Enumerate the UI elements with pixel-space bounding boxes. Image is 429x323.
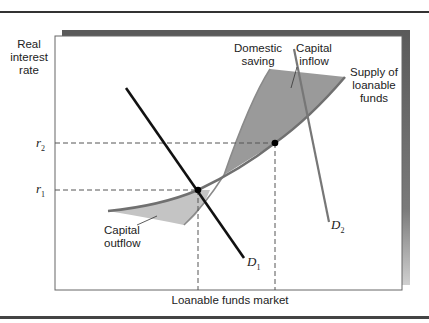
equilibrium-point-2 [272,140,279,147]
panel-right-shadow [402,30,410,285]
y-axis-label: Real interest rate [8,38,50,77]
capital-outflow-label: Capital outflow [104,224,148,250]
loanable-funds-diagram [0,0,429,323]
supply-label: Supply of loanable funds [345,66,403,105]
x-axis-label: Loanable funds market [130,294,330,307]
r2-label: r2 [36,136,45,155]
domestic-saving-label: Domestic saving [230,42,286,68]
y-label-line2: interest [8,51,50,64]
y-label-line3: rate [8,64,50,77]
r1-label: r1 [36,182,45,201]
y-label-line1: Real [8,38,50,51]
d1-label: D1 [247,255,260,274]
d2-label: D2 [331,218,344,237]
equilibrium-point-1 [195,187,202,194]
capital-inflow-label: Capital inflow [292,42,336,68]
